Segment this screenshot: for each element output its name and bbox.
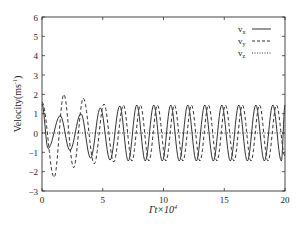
- x-tick-label: 15: [220, 195, 230, 205]
- y-tick-label: 5: [34, 32, 39, 42]
- x-tick-label: 0: [40, 195, 45, 205]
- y-axis-label: Velocity(ms-1): [12, 76, 24, 133]
- legend-item-vz: vz: [238, 48, 271, 59]
- series-vy: [42, 94, 285, 177]
- y-tick-label: 1: [34, 109, 39, 119]
- tick-labels: −3−2−1012345605101520: [28, 13, 290, 206]
- y-tick-label: 6: [34, 13, 39, 23]
- plot-series: [42, 94, 285, 177]
- y-tick-label: 2: [34, 90, 39, 100]
- y-tick-label: −2: [28, 167, 38, 177]
- y-tick-label: 0: [34, 129, 39, 139]
- y-tick-label: −1: [28, 148, 38, 158]
- axis-ticks: [42, 17, 285, 191]
- y-tick-label: 3: [34, 71, 39, 81]
- x-axis-label: Γt×104: [148, 204, 177, 215]
- legend-item-vy: vy: [238, 36, 271, 47]
- plot-frame: [42, 17, 285, 191]
- svg-text:vz: vz: [238, 48, 246, 59]
- x-tick-label: 5: [101, 195, 106, 205]
- legend: vx vy vz: [238, 24, 271, 59]
- svg-text:vx: vx: [238, 24, 246, 35]
- y-tick-label: 4: [34, 51, 39, 61]
- x-tick-label: 20: [281, 195, 291, 205]
- legend-item-vx: vx: [238, 24, 271, 35]
- y-tick-label: −3: [28, 187, 38, 197]
- svg-text:vy: vy: [238, 36, 246, 47]
- velocity-chart: −3−2−1012345605101520 Γt×104 Velocity(ms…: [0, 0, 303, 228]
